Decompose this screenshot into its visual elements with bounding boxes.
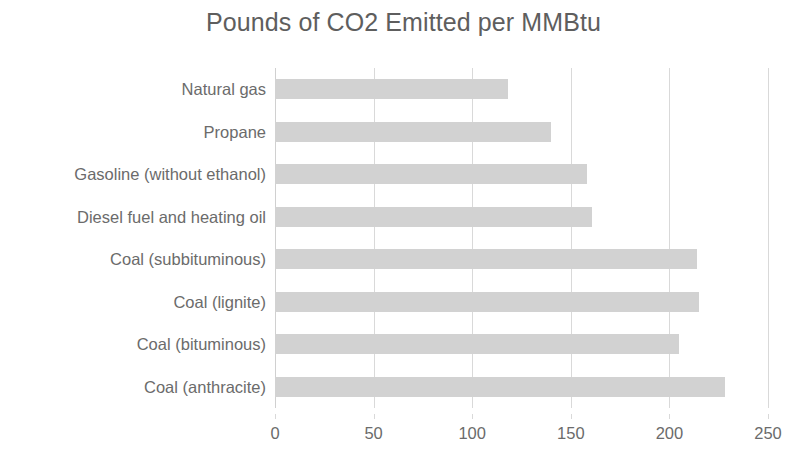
bar-slot — [275, 111, 768, 154]
bar[interactable] — [275, 249, 697, 269]
bar-slot — [275, 153, 768, 196]
category-label: Coal (anthracite) — [6, 377, 266, 397]
value-tick-label: 200 — [656, 424, 684, 443]
bar-slot — [275, 196, 768, 239]
category-label: Coal (subbituminous) — [6, 249, 266, 269]
bar-slot — [275, 68, 768, 111]
bar[interactable] — [275, 334, 679, 354]
category-label: Natural gas — [6, 79, 266, 99]
plot-area — [275, 68, 768, 408]
bar-slot — [275, 238, 768, 281]
bar[interactable] — [275, 79, 508, 99]
value-tick-label: 0 — [270, 424, 279, 443]
category-axis-labels: Natural gasPropaneGasoline (without etha… — [0, 68, 266, 408]
value-tick-label: 150 — [557, 424, 585, 443]
bar[interactable] — [275, 207, 592, 227]
bar[interactable] — [275, 292, 699, 312]
chart-title: Pounds of CO2 Emitted per MMBtu — [0, 8, 807, 37]
category-label: Coal (bituminous) — [6, 334, 266, 354]
tickmark — [768, 414, 769, 419]
category-label: Diesel fuel and heating oil — [6, 207, 266, 227]
gridline — [768, 68, 769, 408]
bar-slot — [275, 366, 768, 409]
category-label: Propane — [6, 122, 266, 142]
bar[interactable] — [275, 122, 551, 142]
value-tick-label: 250 — [754, 424, 782, 443]
value-tick-label: 100 — [458, 424, 486, 443]
bar[interactable] — [275, 377, 725, 397]
tickmark — [571, 414, 572, 419]
bar[interactable] — [275, 164, 587, 184]
bar-slot — [275, 323, 768, 366]
bar-chart: Pounds of CO2 Emitted per MMBtu Natural … — [0, 0, 807, 475]
tickmark — [669, 414, 670, 419]
value-axis-labels: 050100150200250 — [0, 414, 807, 444]
tickmark — [275, 414, 276, 419]
tickmark — [472, 414, 473, 419]
bar-slot — [275, 281, 768, 324]
category-label: Coal (lignite) — [6, 292, 266, 312]
category-label: Gasoline (without ethanol) — [6, 164, 266, 184]
value-tick-label: 50 — [364, 424, 382, 443]
tickmark — [374, 414, 375, 419]
